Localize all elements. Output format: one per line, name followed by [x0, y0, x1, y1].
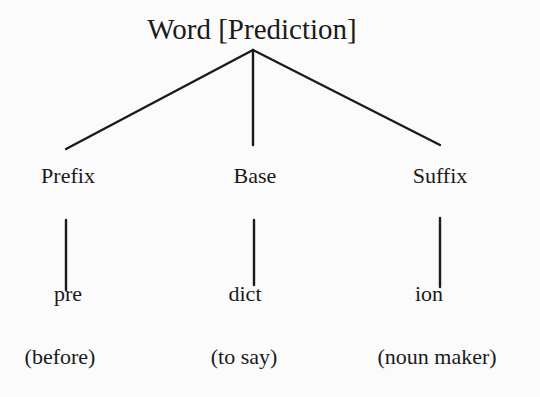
- edge-root-suffix: [253, 50, 440, 145]
- prefix-morpheme: pre: [54, 281, 82, 307]
- suffix-morpheme: ion: [415, 281, 443, 307]
- edge-root-prefix: [66, 50, 253, 149]
- prefix-node: Prefix: [41, 163, 95, 189]
- suffix-meaning: (noun maker): [377, 344, 496, 370]
- base-node: Base: [234, 163, 277, 189]
- base-meaning: (to say): [211, 344, 278, 370]
- suffix-node: Suffix: [413, 163, 468, 189]
- prefix-meaning: (before): [25, 344, 96, 370]
- tree-lines: [0, 0, 540, 397]
- root-node: Word [Prediction]: [147, 13, 356, 46]
- base-morpheme: dict: [229, 281, 262, 307]
